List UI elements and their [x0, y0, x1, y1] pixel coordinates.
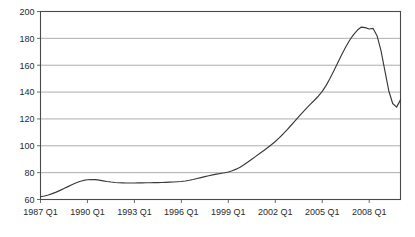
- x-tick-label: 2008 Q1: [352, 207, 387, 217]
- x-tick-label: 1996 Q1: [164, 207, 199, 217]
- x-tick-label: 2002 Q1: [258, 207, 293, 217]
- x-tick-label: 2005 Q1: [305, 207, 340, 217]
- y-tick-label: 80: [24, 168, 34, 178]
- y-tick-label: 160: [19, 61, 34, 71]
- y-tick-label: 100: [19, 141, 34, 151]
- y-tick-label: 140: [19, 87, 34, 97]
- line-chart: 6080100120140160180200 1987 Q11990 Q1199…: [0, 0, 415, 237]
- y-tick-label: 60: [24, 195, 34, 205]
- x-tick-label: 1999 Q1: [211, 207, 246, 217]
- x-tick-label: 1993 Q1: [117, 207, 152, 217]
- y-tick-label: 200: [19, 7, 34, 17]
- x-tick-label: 1987 Q1: [23, 207, 58, 217]
- x-tick-label: 1990 Q1: [70, 207, 105, 217]
- y-tick-label: 120: [19, 114, 34, 124]
- y-tick-label: 180: [19, 34, 34, 44]
- chart-container: 6080100120140160180200 1987 Q11990 Q1199…: [0, 0, 415, 237]
